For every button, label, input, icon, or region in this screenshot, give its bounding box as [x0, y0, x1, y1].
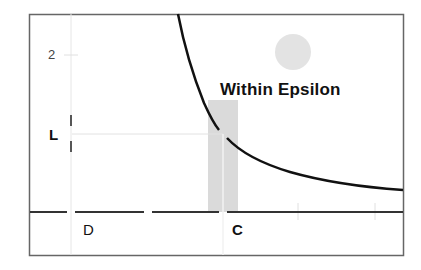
function-curve-right: [227, 138, 403, 190]
limit-label-L: L: [49, 127, 58, 142]
limit-diagram: [0, 0, 421, 270]
point-label-C: C: [232, 222, 243, 237]
epsilon-circle: [275, 34, 311, 70]
within-epsilon-label: Within Epsilon: [220, 81, 341, 98]
y-tick-label-2: 2: [48, 48, 55, 61]
point-label-D: D: [83, 222, 94, 237]
